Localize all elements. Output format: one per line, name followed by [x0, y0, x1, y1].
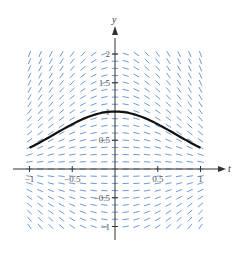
- slope-segment: [178, 66, 181, 72]
- slope-segment: [176, 139, 182, 142]
- slope-segment: [166, 80, 170, 85]
- slope-segment: [37, 161, 43, 162]
- slope-segment: [28, 102, 32, 107]
- slope-segment: [49, 66, 52, 72]
- x-tick-label: 0.5: [152, 174, 164, 184]
- slope-segment: [101, 219, 107, 220]
- slope-segment: [59, 117, 64, 121]
- slope-segment: [133, 197, 139, 198]
- slope-segment: [38, 102, 42, 107]
- slope-segment: [39, 51, 42, 57]
- slope-segment: [49, 58, 52, 64]
- slope-segment: [188, 109, 192, 114]
- slope-segment: [176, 183, 182, 185]
- slope-segment: [37, 146, 43, 149]
- slope-segment: [80, 110, 86, 113]
- slope-segment: [199, 224, 203, 229]
- slope-segment: [60, 73, 64, 78]
- slope-segment: [80, 88, 85, 92]
- slope-segment: [144, 125, 150, 127]
- slope-segment: [91, 225, 97, 227]
- slope-segment: [59, 95, 63, 100]
- slope-segment: [199, 94, 202, 100]
- slope-segment: [39, 66, 42, 72]
- slope-segment: [27, 217, 31, 222]
- slope-segment: [166, 88, 170, 93]
- slope-segment: [165, 146, 171, 148]
- slope-segment: [155, 117, 161, 120]
- slope-segment: [133, 103, 139, 105]
- slope-segment: [101, 118, 107, 119]
- slope-segment: [155, 218, 161, 221]
- slope-segment: [69, 117, 75, 120]
- slope-segment: [199, 102, 203, 107]
- slope-segment: [166, 224, 171, 228]
- slope-segment: [28, 80, 31, 86]
- slope-segment: [39, 87, 42, 92]
- slope-segment: [49, 95, 53, 100]
- slope-segment: [59, 224, 64, 228]
- slope-segment: [49, 224, 54, 229]
- slope-segment: [80, 95, 85, 98]
- slope-segment: [38, 203, 43, 207]
- slope-segment: [80, 147, 86, 148]
- slope-segment: [156, 51, 160, 56]
- slope-segment: [27, 196, 32, 200]
- slope-segment: [90, 154, 96, 155]
- slope-segment: [101, 104, 107, 105]
- slope-segment: [39, 73, 42, 79]
- slope-segment: [69, 162, 75, 163]
- slope-segment: [177, 102, 181, 107]
- slope-segment: [123, 75, 129, 77]
- slope-segment: [133, 147, 139, 148]
- slope-segment: [81, 66, 86, 70]
- slope-segment: [101, 133, 107, 134]
- slope-segment: [155, 95, 160, 99]
- slope-segment: [59, 217, 64, 221]
- y-tick-label: −0.5: [94, 193, 111, 203]
- slope-segment: [133, 96, 139, 98]
- slope-segment: [26, 154, 32, 156]
- slope-segment: [123, 125, 129, 126]
- slope-segment: [198, 124, 203, 129]
- slope-segment: [133, 190, 139, 191]
- slope-segment: [37, 176, 43, 177]
- slope-segment: [49, 73, 52, 78]
- slope-segment: [155, 88, 160, 92]
- slope-segment: [27, 210, 32, 215]
- slope-segment: [38, 116, 42, 121]
- slope-segment: [144, 197, 150, 199]
- slope-segment: [177, 224, 182, 229]
- slope-segment: [166, 210, 171, 213]
- slope-segment: [144, 110, 150, 113]
- slope-segment: [177, 95, 181, 100]
- slope-segment: [198, 210, 203, 215]
- slope-segment: [58, 161, 64, 162]
- slope-segment: [80, 225, 86, 228]
- slope-segment: [155, 211, 161, 214]
- slope-segment: [80, 125, 86, 127]
- slope-segment: [80, 197, 86, 199]
- slope-segment: [165, 161, 171, 162]
- slope-segment: [48, 124, 53, 128]
- slope-segment: [60, 80, 64, 85]
- slope-segment: [187, 176, 193, 177]
- slope-segment: [166, 124, 171, 127]
- slope-segment: [156, 59, 160, 64]
- slope-segment: [167, 73, 171, 78]
- slope-segment: [155, 225, 160, 229]
- slope-segment: [48, 183, 54, 185]
- slope-segment: [59, 88, 63, 93]
- slope-segment: [123, 205, 129, 206]
- slope-segment: [123, 219, 129, 220]
- slope-segment: [80, 154, 86, 155]
- slope-segment: [69, 154, 75, 155]
- slope-segment: [188, 80, 191, 86]
- slope-segment: [58, 154, 64, 155]
- slope-segment: [199, 58, 201, 64]
- slope-segment: [48, 154, 54, 156]
- slope-segment: [91, 89, 97, 92]
- slope-segment: [70, 73, 74, 78]
- slope-segment: [189, 51, 192, 57]
- slope-segment: [48, 139, 54, 142]
